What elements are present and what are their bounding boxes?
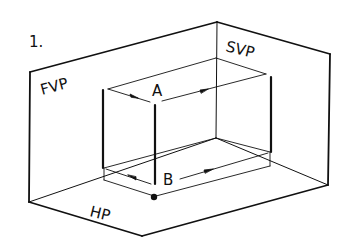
dim-b-label: B xyxy=(163,171,173,189)
base-point-icon xyxy=(151,194,157,200)
dim-a-arrow-left-icon xyxy=(130,94,138,98)
diagram-canvas: 1. xyxy=(0,0,346,245)
dim-b-arrow-left-icon xyxy=(128,175,136,180)
fvp-label: FVP xyxy=(38,74,70,99)
svp-right-edge xyxy=(328,54,330,185)
dim-b-arrow-right-icon xyxy=(204,169,213,173)
prism-bottom-right-edge xyxy=(216,138,270,152)
planes-frame xyxy=(29,22,330,236)
fvp-top-edge xyxy=(30,22,217,72)
prism-bottom-back-edge xyxy=(104,138,216,168)
hp-left-edge xyxy=(29,202,142,236)
dim-a-label: A xyxy=(152,82,163,100)
fvp-left-edge xyxy=(29,72,30,202)
figure-number: 1. xyxy=(29,33,43,51)
projection-diagram: 1. xyxy=(0,0,346,245)
fvp-hp-intersection xyxy=(29,138,216,202)
fvp-svp-intersection xyxy=(216,22,217,138)
prism xyxy=(103,58,271,200)
prism-top-right-edge xyxy=(216,58,266,74)
dim-b-right-line xyxy=(180,153,268,179)
svp-label: SVP xyxy=(224,37,256,61)
dim-a-right-line xyxy=(162,74,266,101)
dim-a-left-line xyxy=(108,89,150,102)
dim-b-left-line xyxy=(106,169,151,184)
dim-a-arrow-right-icon xyxy=(200,89,208,93)
